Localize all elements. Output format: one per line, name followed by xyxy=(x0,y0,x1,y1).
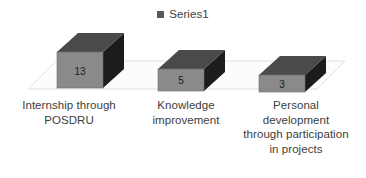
category-label-line: in projects xyxy=(228,142,364,157)
category-axis-labels: Internship through POSDRU Knowledge impr… xyxy=(0,98,366,178)
category-label-line: Personal xyxy=(228,98,364,113)
bar-value-label: 5 xyxy=(158,76,204,86)
category-label-line: through participation xyxy=(228,127,364,142)
category-label-line: development xyxy=(228,113,364,128)
category-label-line: improvement xyxy=(134,113,238,128)
bar-value-label: 3 xyxy=(259,80,305,90)
category-label-0: Internship through POSDRU xyxy=(4,98,134,127)
category-label-2: Personal development through participati… xyxy=(228,98,364,156)
category-label-line: Knowledge xyxy=(134,98,238,113)
bar-value-label: 13 xyxy=(57,67,103,77)
category-label-line: POSDRU xyxy=(4,113,134,128)
chart-container: Series1 13 5 3 xyxy=(0,0,366,178)
category-label-1: Knowledge improvement xyxy=(134,98,238,127)
category-label-line: Internship through xyxy=(4,98,134,113)
